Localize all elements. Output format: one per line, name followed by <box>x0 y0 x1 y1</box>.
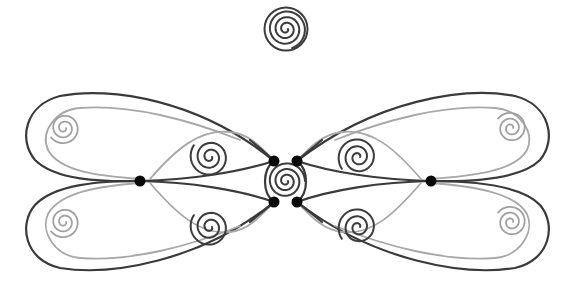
spirals <box>51 8 525 245</box>
upper-left-inner-spiral-icon <box>191 143 226 175</box>
center-bottom-left-node <box>269 197 280 208</box>
left-inner-link-bottom <box>150 183 274 232</box>
center-bottom-right-node <box>292 197 303 208</box>
center-top-right-node <box>292 156 303 167</box>
right-center-connector-bottom <box>297 181 431 202</box>
upper-right-spiral-icon <box>498 113 525 140</box>
lower-left-inner-spiral-icon <box>191 213 226 245</box>
lower-right-inner-spiral-icon <box>339 209 374 241</box>
upper-right-wing-outline <box>297 93 549 181</box>
left-center-connector-top <box>140 161 274 181</box>
upper-left-spiral-icon <box>51 116 78 143</box>
upper-right-inner-spiral-icon <box>339 139 374 171</box>
lower-right-spiral-icon <box>498 207 525 234</box>
center-top-left-node <box>269 156 280 167</box>
top-spiral-icon <box>270 12 305 49</box>
right-junction-node <box>426 176 437 187</box>
lower-left-wing-inner-outline <box>46 183 240 259</box>
left-inner-link-top <box>150 132 274 179</box>
left-center-connector-bottom <box>140 181 274 202</box>
center-spiral-icon <box>270 163 305 195</box>
left-wings <box>26 93 274 270</box>
upper-right-wing-inner-outline <box>335 107 529 179</box>
center-crossing <box>250 140 322 222</box>
spiral-loop-diagram <box>0 0 584 296</box>
lower-left-spiral-icon <box>51 210 78 237</box>
left-junction-node <box>135 176 146 187</box>
